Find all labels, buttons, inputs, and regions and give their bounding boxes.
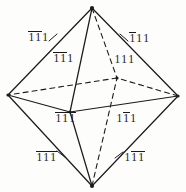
miller-digit: 1 bbox=[124, 152, 131, 164]
octahedron-figure: 111111111111111111111111 bbox=[0, 0, 186, 192]
miller-digit: 1 bbox=[67, 53, 74, 65]
face-label-upper-left-inner: 111 bbox=[53, 53, 74, 65]
miller-digit: 1 bbox=[116, 113, 123, 125]
edge-top-back bbox=[92, 8, 117, 78]
edge-bottom-left bbox=[8, 95, 92, 186]
miller-digit-barred: 1 bbox=[55, 113, 62, 125]
edge-left-front bbox=[8, 95, 70, 112]
edge-bottom-back bbox=[92, 78, 117, 186]
miller-digit-barred: 1 bbox=[53, 53, 60, 65]
miller-digit: 1 bbox=[114, 54, 121, 66]
face-label-upper-left-outer: 111 bbox=[28, 32, 49, 44]
edge-top-left bbox=[8, 8, 92, 95]
miller-digit-barred: 1 bbox=[60, 53, 67, 65]
miller-digit: 1 bbox=[130, 113, 137, 125]
miller-digit-barred: 1 bbox=[129, 33, 136, 45]
miller-digit-barred: 1 bbox=[62, 113, 69, 125]
leader-line bbox=[49, 34, 57, 41]
octahedron-wireframe bbox=[0, 0, 186, 192]
face-label-lower-left-inner: 111 bbox=[55, 113, 76, 125]
miller-digit-barred: 1 bbox=[43, 152, 50, 164]
miller-digit: 1 bbox=[128, 54, 135, 66]
left-vertex bbox=[6, 93, 9, 96]
miller-digit: 1 bbox=[42, 32, 49, 44]
miller-digit-barred: 1 bbox=[28, 32, 35, 44]
miller-digit-barred: 1 bbox=[35, 32, 42, 44]
miller-digit-barred: 1 bbox=[131, 152, 138, 164]
miller-digit-barred: 1 bbox=[50, 152, 57, 164]
edge-back-left bbox=[8, 78, 117, 95]
miller-digit: 1 bbox=[136, 33, 143, 45]
miller-digit-barred: 1 bbox=[138, 152, 145, 164]
miller-digit-barred: 1 bbox=[69, 113, 76, 125]
face-label-lower-right-outer: 111 bbox=[124, 152, 145, 164]
face-label-upper-right-outer: 111 bbox=[129, 33, 150, 45]
back-vertex bbox=[115, 76, 118, 79]
face-label-lower-left-outer: 111 bbox=[36, 152, 57, 164]
face-label-upper-right-inner: 111 bbox=[114, 54, 135, 66]
edge-bottom-right bbox=[92, 96, 178, 186]
bottom-vertex bbox=[90, 184, 94, 188]
face-label-lower-right-inner: 111 bbox=[116, 113, 137, 125]
miller-digit-barred: 1 bbox=[123, 113, 130, 125]
miller-digit: 1 bbox=[143, 33, 150, 45]
edge-front-right bbox=[70, 96, 178, 112]
top-vertex bbox=[90, 6, 94, 10]
miller-digit: 1 bbox=[121, 54, 128, 66]
miller-digit-barred: 1 bbox=[36, 152, 43, 164]
right-vertex bbox=[176, 94, 179, 97]
